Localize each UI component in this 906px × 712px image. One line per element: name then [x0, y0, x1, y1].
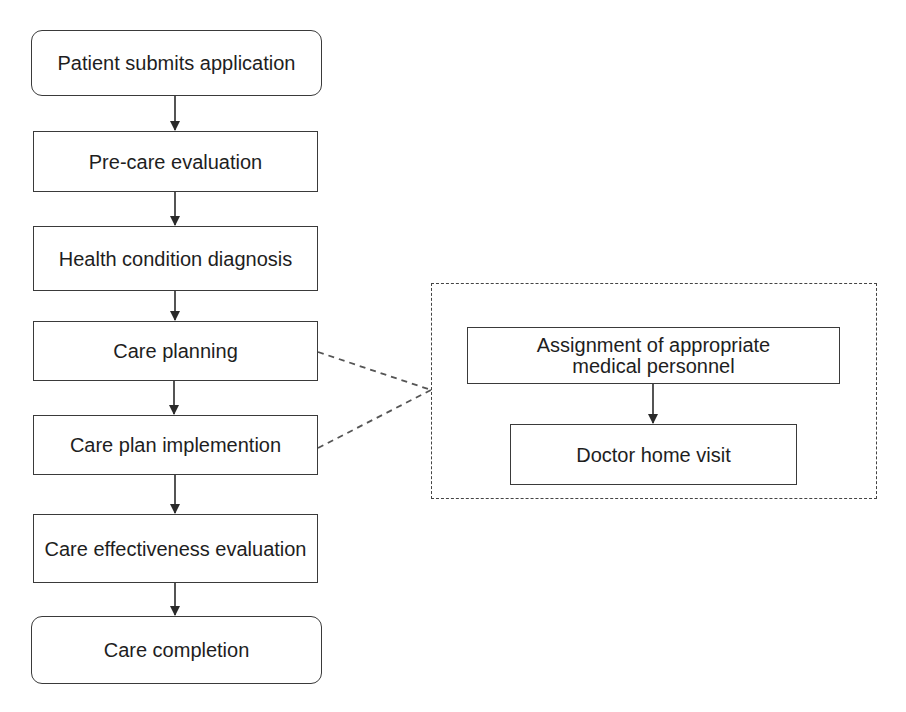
step-care-completion: Care completion — [31, 616, 322, 684]
step-label: Care effectiveness evaluation — [44, 538, 306, 560]
step-label: Care planning — [113, 340, 238, 362]
detail-label: Doctor home visit — [576, 444, 731, 466]
step-patient-submits-application: Patient submits application — [31, 30, 322, 96]
step-care-effectiveness-evaluation: Care effectiveness evaluation — [33, 514, 318, 583]
detail-doctor-home-visit: Doctor home visit — [510, 424, 797, 485]
step-label: Health condition diagnosis — [59, 248, 293, 270]
step-label: Pre-care evaluation — [89, 151, 262, 173]
step-label: Care completion — [104, 639, 250, 661]
detail-assignment-of-medical-personnel: Assignment of appropriate medical person… — [467, 327, 840, 384]
step-care-planning: Care planning — [33, 321, 318, 381]
detail-label: Assignment of appropriate medical person… — [528, 335, 779, 377]
step-label: Patient submits application — [58, 52, 296, 74]
step-care-plan-implementation: Care plan implemention — [33, 415, 318, 475]
step-pre-care-evaluation: Pre-care evaluation — [33, 131, 318, 192]
step-label: Care plan implemention — [70, 434, 281, 456]
step-health-condition-diagnosis: Health condition diagnosis — [33, 226, 318, 291]
dashed-link-lines — [318, 352, 431, 448]
